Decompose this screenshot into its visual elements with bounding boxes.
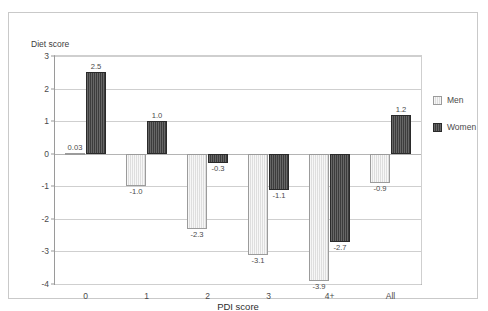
gridline-y-1 — [55, 121, 421, 122]
bar-men-All[interactable] — [370, 154, 390, 183]
y-tick-mark — [51, 284, 55, 285]
y-tick-mark — [51, 121, 55, 122]
x-tick-label-1: 1 — [144, 291, 149, 301]
y-axis-title: Diet score — [31, 39, 69, 49]
gridline-y--4 — [55, 284, 421, 285]
bar-value-label: -2.3 — [178, 230, 216, 239]
legend-label: Men — [447, 95, 464, 105]
y-tick-mark — [51, 186, 55, 187]
bar-women-2[interactable] — [208, 154, 228, 164]
gridline-y-3 — [55, 56, 421, 57]
chart-legend: MenWomen — [433, 95, 488, 149]
bar-value-label: -3.1 — [239, 256, 277, 265]
bar-value-label: -3.9 — [300, 282, 338, 291]
figure-frame: Diet score 3210-1-2-3-400.032.51-1.01.02… — [8, 12, 478, 299]
bar-value-label: 2.5 — [77, 62, 115, 71]
y-tick-mark — [51, 218, 55, 219]
bar-women-All[interactable] — [391, 115, 411, 154]
x-tick-label-2: 2 — [205, 291, 210, 301]
y-tick-label: -4 — [41, 279, 49, 289]
bar-men-0[interactable] — [65, 153, 85, 155]
legend-label: Women — [447, 122, 476, 132]
y-tick-mark — [51, 251, 55, 252]
x-axis-title: PDI score — [54, 301, 422, 311]
bar-value-label: 1.0 — [138, 111, 176, 120]
y-tick-mark — [51, 56, 55, 57]
gridline-y-2 — [55, 89, 421, 90]
bar-men-4plus[interactable] — [309, 154, 329, 281]
bar-women-4plus[interactable] — [330, 154, 350, 242]
y-tick-label: 2 — [44, 84, 49, 94]
legend-swatch-icon — [433, 96, 442, 105]
y-tick-label: 0 — [44, 149, 49, 159]
bar-value-label: 1.2 — [382, 105, 420, 114]
legend-item-men[interactable]: Men — [433, 95, 488, 105]
y-tick-label: -1 — [41, 181, 49, 191]
y-tick-mark — [51, 88, 55, 89]
bar-value-label: -0.3 — [199, 164, 237, 173]
gridline-y--2 — [55, 219, 421, 220]
gridline-y-0 — [55, 154, 421, 155]
bar-value-label: -0.9 — [361, 184, 399, 193]
x-tick-label-3: 3 — [266, 291, 271, 301]
x-tick-label-All: All — [386, 291, 395, 301]
y-tick-label: 1 — [44, 116, 49, 126]
bar-value-label: -1.1 — [260, 191, 298, 200]
bar-women-0[interactable] — [86, 72, 106, 153]
x-tick-label-0: 0 — [83, 291, 88, 301]
y-tick-label: -3 — [41, 246, 49, 256]
plot-area: 3210-1-2-3-400.032.51-1.01.02-2.3-0.33-3… — [54, 55, 422, 285]
bar-women-1[interactable] — [147, 121, 167, 154]
bar-value-label: -1.0 — [117, 187, 155, 196]
y-tick-mark — [51, 153, 55, 154]
bar-women-3[interactable] — [269, 154, 289, 190]
y-tick-label: 3 — [44, 51, 49, 61]
gridline-y--3 — [55, 251, 421, 252]
bar-value-label: -2.7 — [321, 243, 359, 252]
bar-men-1[interactable] — [126, 154, 146, 187]
legend-swatch-icon — [433, 123, 442, 132]
legend-item-women[interactable]: Women — [433, 122, 488, 132]
y-tick-label: -2 — [41, 214, 49, 224]
bar-men-3[interactable] — [248, 154, 268, 255]
x-tick-label-4plus: 4+ — [325, 291, 335, 301]
